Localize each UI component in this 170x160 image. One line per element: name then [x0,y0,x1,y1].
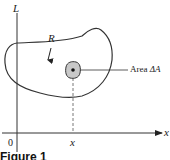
region-r-boundary [5,28,112,97]
area-label-prefix: Area [130,64,148,74]
vertical-axis-label: L [13,3,19,14]
x-tick-label: x [70,137,75,148]
diagram-canvas [0,0,170,160]
region-label: R [48,33,55,44]
region-arrow [48,48,51,60]
horizontal-axis-label: x [164,127,169,138]
figure-caption: Figure 1 [0,151,47,160]
area-label-symbol: ΔA [150,64,161,74]
origin-label: 0 [8,138,13,148]
area-center-dot [71,68,75,72]
area-label: Area ΔA [130,65,161,74]
